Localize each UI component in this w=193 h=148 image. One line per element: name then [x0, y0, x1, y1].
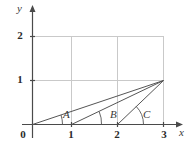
- angle-label-b: B: [110, 108, 117, 120]
- x-tick-label-1: 1: [64, 128, 78, 140]
- x-tick-label-0: 0: [16, 128, 30, 140]
- axes: [22, 12, 176, 138]
- y-tick-label-2: 2: [13, 29, 27, 41]
- angle-label-c: C: [143, 108, 150, 120]
- ray-C: [118, 81, 164, 125]
- angle-arcs: [61, 106, 144, 124]
- y-axis-arrow: [30, 5, 36, 12]
- y-axis-label: y: [17, 2, 22, 14]
- coordinate-plot: [0, 0, 193, 148]
- x-axis-label: x: [179, 126, 184, 138]
- angle-arc-B: [99, 112, 101, 125]
- x-tick-label-3: 3: [157, 128, 171, 140]
- x-tick-label-2: 2: [110, 128, 124, 140]
- angle-comparison-figure: y x 2 1 0 1 2 3 A B C: [0, 0, 193, 148]
- y-tick-label-1: 1: [13, 73, 27, 85]
- angle-label-a: A: [63, 108, 70, 120]
